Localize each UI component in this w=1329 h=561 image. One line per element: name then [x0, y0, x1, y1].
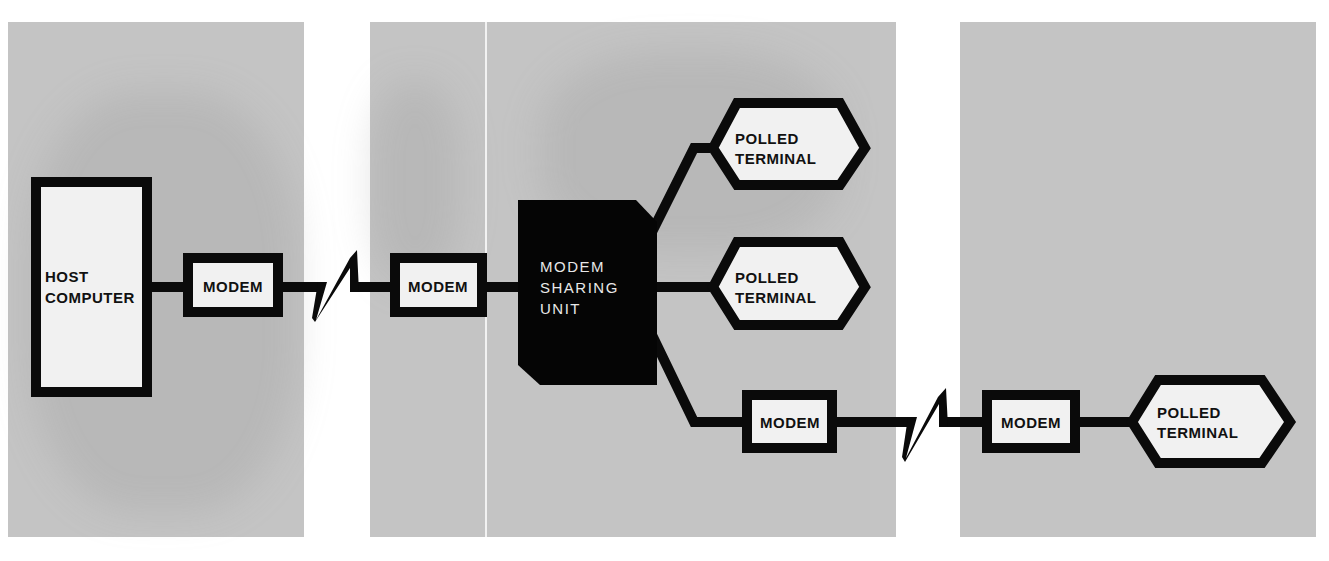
- sharing-unit-label-line2: SHARING: [540, 279, 619, 296]
- link-unit-modem3: [652, 335, 742, 422]
- line-break-icon: [312, 250, 359, 322]
- line-break-icon: [902, 388, 948, 462]
- terminal-1-label-line1: POLLED: [735, 130, 799, 147]
- network-diagram: HOST COMPUTER MODEM MODEM MODEM SHARING …: [0, 0, 1329, 561]
- link-unit-terminal1: [652, 148, 710, 232]
- modem-4-label: MODEM: [1001, 414, 1061, 431]
- host-computer-label-line1: HOST: [45, 268, 89, 285]
- terminal-1-label-line2: TERMINAL: [735, 150, 817, 167]
- host-computer-label-line2: COMPUTER: [45, 289, 135, 306]
- terminal-2-label-line2: TERMINAL: [735, 289, 817, 306]
- sharing-unit-label-line1: MODEM: [540, 258, 605, 275]
- terminal-3-label-line2: TERMINAL: [1157, 424, 1239, 441]
- sharing-unit-label-line3: UNIT: [540, 300, 581, 317]
- host-computer-box: [36, 182, 147, 392]
- polled-terminal-3-box: [1132, 380, 1290, 463]
- terminal-2-label-line1: POLLED: [735, 269, 799, 286]
- terminal-3-label-line1: POLLED: [1157, 404, 1221, 421]
- modem-1-label: MODEM: [203, 278, 263, 295]
- modem-3-label: MODEM: [760, 414, 820, 431]
- modem-2-label: MODEM: [408, 278, 468, 295]
